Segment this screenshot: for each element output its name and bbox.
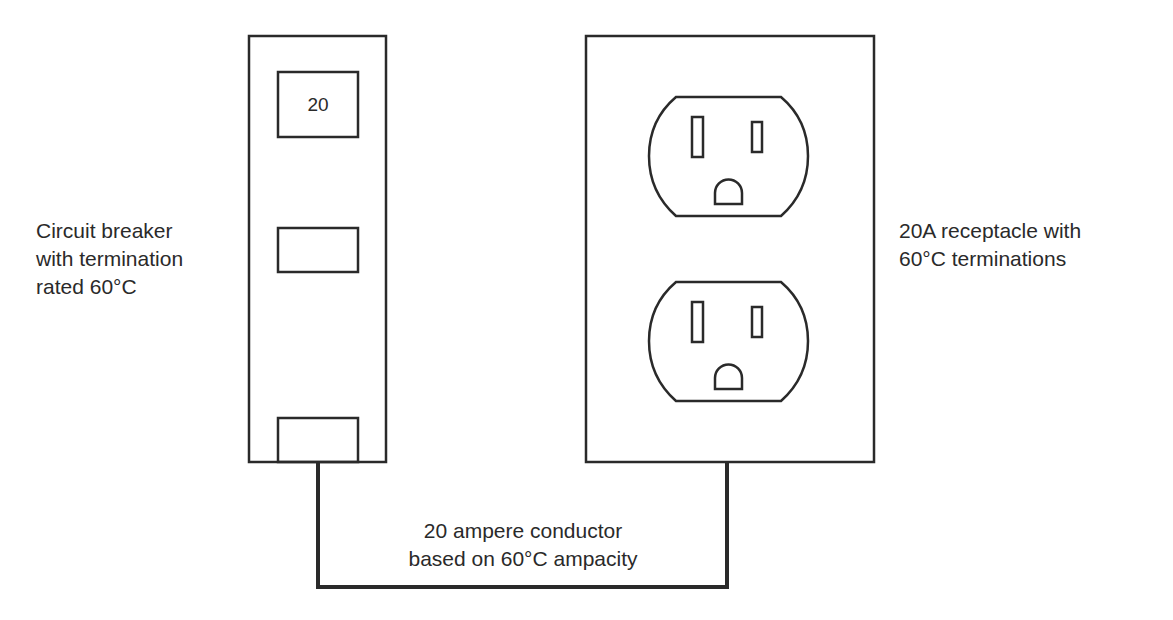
hot-slot bbox=[692, 302, 703, 342]
breaker-label-line: Circuit breaker bbox=[36, 217, 183, 245]
breaker-label-line: rated 60°C bbox=[36, 273, 183, 301]
neutral-slot bbox=[752, 122, 762, 152]
outlet-upper bbox=[649, 97, 808, 216]
outlet-face bbox=[649, 97, 808, 216]
conductor-label-line: 20 ampere conductor bbox=[318, 517, 728, 545]
conductor-label-line: based on 60°C ampacity bbox=[318, 545, 728, 573]
outlet-lower bbox=[649, 282, 808, 401]
ground-hole bbox=[715, 365, 742, 390]
breaker-terminal bbox=[278, 418, 358, 462]
breaker-label-line: with termination bbox=[36, 245, 183, 273]
neutral-slot bbox=[752, 307, 762, 337]
breaker-handle bbox=[278, 228, 358, 272]
receptacle-plate bbox=[586, 36, 874, 462]
outlet-face bbox=[649, 282, 808, 401]
receptacle-label-line: 20A receptacle with bbox=[899, 217, 1081, 245]
receptacle bbox=[586, 36, 874, 462]
conductor-label: 20 ampere conductor based on 60°C ampaci… bbox=[318, 517, 728, 573]
breaker-label: Circuit breaker with termination rated 6… bbox=[36, 217, 183, 301]
receptacle-label: 20A receptacle with 60°C terminations bbox=[899, 217, 1081, 273]
hot-slot bbox=[692, 117, 703, 157]
receptacle-label-line: 60°C terminations bbox=[899, 245, 1081, 273]
breaker-rating-text: 20 bbox=[278, 72, 358, 137]
ground-hole bbox=[715, 180, 742, 205]
